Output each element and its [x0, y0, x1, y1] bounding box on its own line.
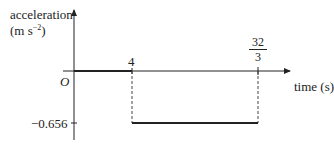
y-axis-label: acceleration	[10, 8, 73, 21]
y-unit-text: (m s	[10, 23, 33, 38]
fraction-numerator: 32	[249, 36, 267, 50]
y-unit-exponent: −2	[33, 23, 42, 32]
y-tick-label-neg-0656: −0.656	[31, 117, 68, 130]
y-axis-unit: (m s−2)	[10, 24, 46, 37]
x-tick-label-32-3: 32 3	[249, 36, 267, 63]
origin-label: O	[60, 75, 69, 88]
x-tick-label-4: 4	[128, 55, 135, 68]
y-unit-close: )	[41, 23, 45, 38]
x-axis-label: time (s)	[294, 80, 334, 93]
fraction-denominator: 3	[249, 50, 267, 63]
